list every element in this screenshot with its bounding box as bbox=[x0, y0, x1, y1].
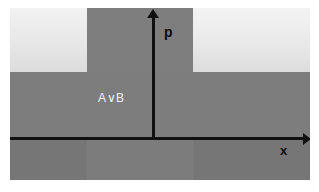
x-axis-label: x bbox=[280, 144, 287, 157]
x-axis-line bbox=[10, 137, 306, 140]
x-axis-arrowhead-icon bbox=[303, 133, 310, 145]
region-label-a-or-b: A∨B bbox=[98, 92, 125, 104]
plot-canvas: p x A∨B bbox=[10, 8, 310, 180]
region-center-column bbox=[87, 8, 193, 72]
region-mid-band bbox=[10, 72, 310, 137]
p-axis-line bbox=[152, 18, 155, 139]
figure-container: p x A∨B bbox=[0, 0, 319, 192]
p-axis-label: p bbox=[164, 25, 173, 39]
region-upper-right bbox=[193, 8, 310, 72]
p-axis-arrowhead-icon bbox=[147, 9, 159, 18]
region-upper-left bbox=[10, 8, 87, 72]
region-below-axis-center bbox=[87, 140, 193, 180]
